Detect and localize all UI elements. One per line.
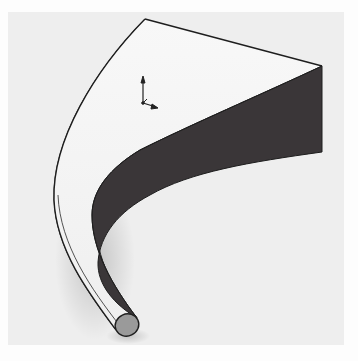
model-view[interactable] [0, 0, 358, 361]
